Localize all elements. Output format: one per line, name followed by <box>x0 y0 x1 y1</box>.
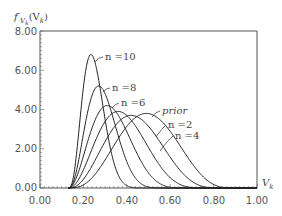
svg-text:Vk: Vk <box>262 177 273 191</box>
curve-prior <box>68 113 257 188</box>
x-axis-title: Vk <box>262 177 273 191</box>
y-tick-label: 2.00 <box>15 143 37 154</box>
curve-group <box>68 55 257 188</box>
y-axis-ticks <box>40 31 44 188</box>
y-tick-label: 4.00 <box>15 104 37 115</box>
curve-n6 <box>68 106 257 188</box>
x-tick-label: 0.60 <box>159 195 181 206</box>
x-tick-label: 1.00 <box>246 195 268 206</box>
y-tick-label: 8.00 <box>15 26 37 37</box>
x-tick-label: 0.40 <box>116 195 138 206</box>
label-n10: n =10 <box>105 51 136 62</box>
label-n8: n =8 <box>112 82 136 93</box>
label-n4: n =4 <box>175 130 199 141</box>
curve-n10 <box>68 55 257 188</box>
x-tick-label: 0.20 <box>72 195 94 206</box>
x-tick-label: 0.80 <box>203 195 225 206</box>
x-tick-label: 0.00 <box>29 195 51 206</box>
y-tick-label: 6.00 <box>15 65 37 76</box>
curve-n2 <box>68 115 257 188</box>
chart-canvas: 0.00 2.00 4.00 6.00 8.00 0.00 0.20 0.40 … <box>0 0 282 216</box>
y-tick-label: 0.00 <box>15 182 37 193</box>
label-n6: n =6 <box>121 97 145 108</box>
label-prior: prior <box>162 105 188 116</box>
svg-text:f′Vk(Vk): f′Vk(Vk) <box>13 11 48 26</box>
y-axis-title: f′Vk(Vk) <box>13 11 48 26</box>
label-n2: n =2 <box>168 119 192 130</box>
